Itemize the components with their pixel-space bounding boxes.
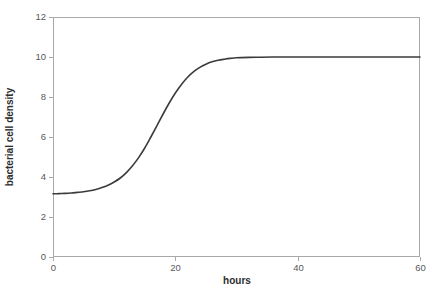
y-tick-label: 4 — [41, 171, 46, 182]
x-axis-tick-labels: 0204060 — [51, 262, 426, 273]
chart-figure: 024681012 0204060 hours bacterial cell d… — [0, 0, 440, 301]
y-tick-label: 2 — [41, 211, 46, 222]
x-axis-title: hours — [223, 275, 251, 286]
y-tick-label: 10 — [35, 51, 46, 62]
y-tick-label: 6 — [41, 131, 46, 142]
x-tick-label: 0 — [51, 262, 56, 273]
y-axis-ticks — [49, 18, 53, 258]
x-tick-label: 40 — [293, 262, 304, 273]
data-series-group — [53, 57, 420, 194]
plot-frame — [54, 18, 420, 257]
x-tick-label: 60 — [415, 262, 426, 273]
y-tick-label: 8 — [41, 91, 46, 102]
plot-border-rect — [54, 18, 420, 257]
growth-curve-chart: 024681012 0204060 hours bacterial cell d… — [0, 0, 440, 301]
x-tick-label: 20 — [170, 262, 181, 273]
y-axis-tick-labels: 024681012 — [35, 11, 46, 262]
y-tick-label: 0 — [41, 251, 46, 262]
x-axis-ticks — [54, 257, 421, 261]
y-axis-title: bacterial cell density — [4, 87, 15, 186]
y-tick-label: 12 — [35, 11, 46, 22]
bacterial-growth-curve — [53, 57, 420, 194]
